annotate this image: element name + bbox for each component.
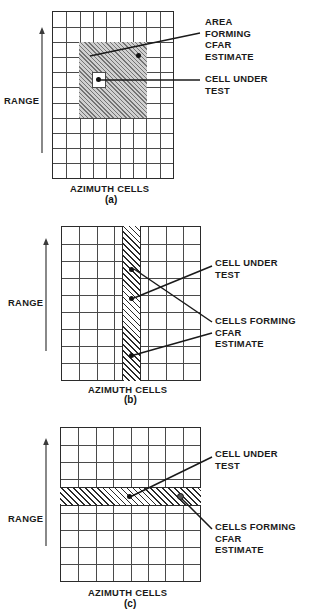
cfar-dot-b-lower — [129, 353, 134, 358]
grid-line-horizontal — [61, 513, 200, 514]
cut-dot-c — [127, 494, 132, 499]
cfar-dot-b-upper — [129, 296, 134, 301]
grid-line-vertical — [97, 227, 98, 380]
grid-line-horizontal — [61, 564, 200, 565]
panel-caption-c: (c) — [124, 598, 136, 609]
range-axis-arrow-b — [41, 238, 51, 351]
grid-line-vertical — [114, 227, 115, 380]
grid-line-vertical — [160, 12, 161, 178]
grid-line-vertical — [79, 227, 80, 380]
grid-line-horizontal — [61, 547, 200, 548]
grid-line-vertical — [166, 227, 167, 380]
label-cells-forming-cfar-estimate-b: CELLS FORMING CFAR ESTIMATE — [215, 315, 296, 350]
cfar-dot-c — [177, 493, 184, 500]
area-dot-a — [136, 53, 141, 58]
label-cell-under-test-a: CELL UNDER TEST — [205, 73, 268, 96]
grid-line-horizontal — [53, 148, 173, 149]
azimuth-axis-label-c: AZIMUTH CELLS — [88, 587, 167, 598]
label-cell-under-test-c: CELL UNDER TEST — [215, 448, 278, 471]
grid-line-horizontal — [53, 27, 173, 28]
range-axis-label-c: RANGE — [8, 513, 43, 524]
panel-caption-a: (a) — [105, 194, 117, 205]
cut-dot-b — [129, 267, 134, 272]
cut-dot-a — [96, 77, 101, 82]
grid-line-vertical — [148, 227, 149, 380]
range-axis-arrow-a — [37, 27, 47, 153]
grid-line-horizontal — [53, 133, 173, 134]
grid-line-horizontal — [61, 445, 200, 446]
grid-line-vertical — [66, 12, 67, 178]
grid-line-horizontal — [61, 479, 200, 480]
grid-line-horizontal — [61, 530, 200, 531]
grid-line-horizontal — [53, 118, 173, 119]
label-cells-forming-cfar-estimate-c: CELLS FORMING CFAR ESTIMATE — [215, 521, 296, 556]
grid-line-vertical — [183, 227, 184, 380]
grid-line-horizontal — [53, 163, 173, 164]
panel-caption-b: (b) — [124, 394, 137, 405]
panel-c: RANGE CELL UNDER TEST CELLS FORMING CFAR… — [0, 407, 314, 616]
label-area-forming-cfar-estimate-a: AREA FORMING CFAR ESTIMATE — [205, 16, 254, 62]
azimuth-axis-label-a: AZIMUTH CELLS — [70, 183, 149, 194]
panel-a: RANGE AREA FORMING CFAR ESTIMATE CELL UN… — [0, 0, 314, 205]
panel-b: RANGE CELL UNDER TEST CELLS FORMING CFAR… — [0, 205, 314, 407]
label-cell-under-test-b: CELL UNDER TEST — [215, 257, 278, 280]
range-axis-arrow-c — [41, 438, 51, 546]
range-axis-label-b: RANGE — [8, 297, 43, 308]
grid-line-horizontal — [61, 462, 200, 463]
range-axis-label-a: RANGE — [4, 95, 39, 106]
